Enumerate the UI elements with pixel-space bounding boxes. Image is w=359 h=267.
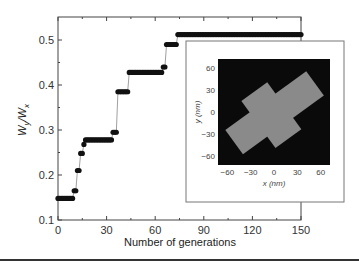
- x-tick-label: 120: [243, 224, 261, 236]
- inset-x-tick-label: 30: [293, 168, 302, 177]
- x-tick-label: 150: [292, 224, 310, 236]
- inset-y-tick-label: −60: [201, 152, 215, 161]
- inset-y-title: y (nm): [193, 100, 202, 124]
- inset-x-tick-label: 60: [316, 168, 325, 177]
- inset-x-tick-label: 0: [272, 168, 277, 177]
- y-tick-label: 0.4: [39, 79, 54, 91]
- y-tick-label: 0.5: [39, 34, 54, 46]
- x-tick-label: 90: [198, 224, 210, 236]
- x-axis-title: Number of generations: [124, 236, 236, 248]
- inset-y-tick-label: 30: [206, 86, 215, 95]
- chart-canvas: 0.10.20.30.40.5 0306090120150 Number of …: [0, 0, 359, 267]
- bottom-rule: [0, 259, 359, 261]
- x-tick-label: 60: [149, 224, 161, 236]
- inset-x-title: x (nm): [262, 179, 286, 188]
- y-axis-title: Wy/Wx: [16, 103, 31, 136]
- y-tick-label: 0.2: [39, 169, 54, 181]
- inset-y-tick-label: 0: [211, 108, 216, 117]
- inset-x-tick-label: −60: [221, 168, 235, 177]
- y-tick-label: 0.3: [39, 124, 54, 136]
- x-tick-label: 0: [55, 224, 61, 236]
- inset-y-tick-label: 60: [206, 64, 215, 73]
- inset-y-tick-label: −30: [201, 130, 215, 139]
- y-tick-label: 0.1: [39, 214, 54, 226]
- x-tick-label: 30: [100, 224, 112, 236]
- inset-panel: −60−300306060300−30−60 x (nm) y (nm): [186, 41, 344, 202]
- inset-x-tick-label: −30: [244, 168, 258, 177]
